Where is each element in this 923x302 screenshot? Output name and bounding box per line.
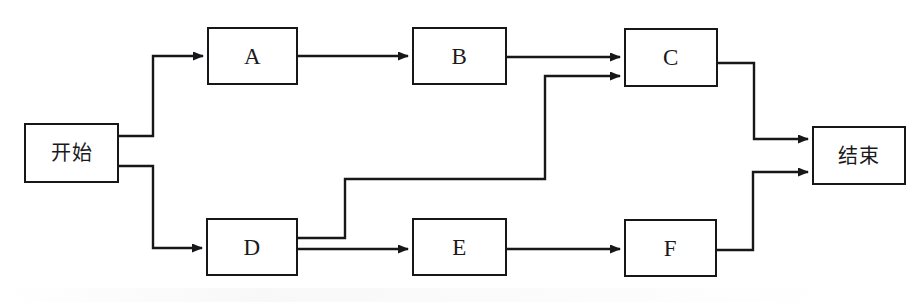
edge-start-to-d bbox=[119, 166, 202, 248]
node-f[interactable]: F bbox=[624, 219, 717, 277]
node-end-label: 结束 bbox=[838, 146, 880, 166]
node-e[interactable]: E bbox=[412, 218, 507, 276]
node-a-label: A bbox=[244, 45, 261, 68]
node-d-label: D bbox=[243, 236, 260, 259]
edge-c-to-end bbox=[718, 63, 808, 139]
flowchart-canvas: 开始 A B C D E F 结束 bbox=[0, 0, 923, 302]
node-c-label: C bbox=[663, 46, 679, 69]
node-d[interactable]: D bbox=[206, 218, 298, 276]
node-c[interactable]: C bbox=[624, 28, 718, 87]
node-start-label: 开始 bbox=[51, 143, 93, 163]
node-b-label: B bbox=[452, 45, 468, 68]
edge-f-to-end bbox=[717, 172, 808, 250]
edge-start-to-a bbox=[119, 56, 203, 136]
node-start[interactable]: 开始 bbox=[24, 123, 119, 183]
node-a[interactable]: A bbox=[207, 27, 298, 85]
edge-d-to-c bbox=[298, 76, 620, 238]
node-end[interactable]: 结束 bbox=[812, 126, 906, 185]
node-e-label: E bbox=[452, 236, 467, 259]
node-b[interactable]: B bbox=[412, 27, 507, 85]
node-f-label: F bbox=[664, 237, 677, 260]
